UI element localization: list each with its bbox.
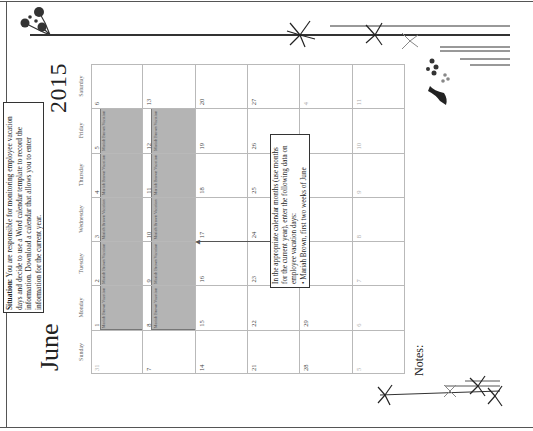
calendar-day-cell[interactable]: 9	[353, 153, 405, 197]
day-number: 5	[93, 146, 100, 149]
vacation-entry: Mariah Brown Vacation	[153, 154, 158, 197]
calendar-day-cell[interactable]: 29	[300, 285, 352, 329]
vacation-entry: Mariah Brown Vacation	[101, 154, 106, 197]
grass-decoration-icon	[350, 371, 533, 431]
day-number: 14	[198, 365, 205, 372]
day-number: 12	[145, 143, 152, 150]
day-number: 25	[250, 187, 257, 194]
day-number: 10	[355, 143, 362, 150]
calendar-day-cell[interactable]: 18	[196, 153, 248, 197]
situation-box: Situation: You are responsible for monit…	[3, 102, 44, 313]
day-number: 4	[93, 191, 100, 194]
month-title: June	[35, 323, 65, 371]
day-number: 10	[145, 232, 152, 239]
day-number: 7	[355, 279, 362, 282]
day-number: 7	[145, 368, 152, 371]
instruction-callout: In the appropriate calendar months (use …	[270, 134, 310, 288]
day-number: 19	[198, 143, 205, 150]
day-number: 15	[198, 320, 205, 327]
calendar-day-cell[interactable]: 7	[143, 330, 195, 374]
calendar-day-cell[interactable]: 16	[196, 241, 248, 285]
day-number: 8	[145, 323, 152, 326]
calendar-day-cell[interactable]: 22	[248, 285, 300, 329]
callout-intro: In the appropriate calendar months (use …	[272, 138, 300, 284]
day-number: 2	[93, 279, 100, 282]
calendar-day-cell[interactable]: 31	[91, 330, 143, 374]
day-number: 21	[250, 365, 257, 372]
weekday-header: Wednesday	[78, 197, 84, 241]
vacation-entry: Mariah Brown Vacation	[153, 286, 158, 329]
calendar-day-cell[interactable]: 4Mariah Brown Vacation	[91, 153, 143, 197]
day-number: 23	[250, 276, 257, 283]
weekday-header: Monday	[78, 285, 84, 329]
calendar-day-cell[interactable]: 15	[196, 285, 248, 329]
day-number: 18	[198, 187, 205, 194]
calendar-day-cell[interactable]: 8	[353, 197, 405, 241]
calendar-day-cell[interactable]: 6	[353, 285, 405, 329]
vacation-entry: Mariah Brown Vacation	[101, 198, 106, 241]
weekday-header: Thursday	[78, 153, 84, 197]
calendar-day-cell[interactable]: 5	[353, 330, 405, 374]
calendar-day-cell[interactable]: 14	[196, 330, 248, 374]
weekday-header: Tuesday	[78, 241, 84, 285]
callout-arrow-line	[197, 241, 270, 242]
calendar-day-cell[interactable]: 21	[248, 330, 300, 374]
day-number: 16	[198, 276, 205, 283]
calendar-day-cell[interactable]: 17	[196, 197, 248, 241]
day-number: 6	[355, 323, 362, 326]
day-number: 28	[302, 365, 309, 372]
calendar-day-cell[interactable]: 28	[300, 330, 352, 374]
day-number: 24	[250, 232, 257, 239]
day-number: 3	[93, 235, 100, 238]
day-number: 8	[355, 235, 362, 238]
calendar-page: Situation: You are responsible for monit…	[0, 0, 533, 431]
calendar-day-cell[interactable]: 3Mariah Brown Vacation	[91, 197, 143, 241]
vacation-entry: Mariah Brown Vacation	[153, 242, 158, 285]
vacation-entry: Mariah Brown Vacation	[101, 286, 106, 329]
day-number: 31	[93, 365, 100, 372]
day-number: 26	[250, 143, 257, 150]
calendar-day-cell[interactable]: 10Mariah Brown Vacation	[143, 197, 195, 241]
day-number: 1	[93, 323, 100, 326]
calendar-day-cell[interactable]: 11Mariah Brown Vacation	[143, 153, 195, 197]
day-number: 22	[250, 320, 257, 327]
tree-branch-decoration-icon	[0, 0, 533, 131]
situation-label: Situation:	[5, 279, 14, 310]
calendar-day-cell[interactable]: 8Mariah Brown Vacation	[143, 285, 195, 329]
day-number: 29	[302, 320, 309, 327]
calendar-day-cell[interactable]: 9Mariah Brown Vacation	[143, 241, 195, 285]
calendar-day-cell[interactable]: 7	[353, 241, 405, 285]
vacation-entry: Mariah Brown Vacation	[101, 242, 106, 285]
day-number: 9	[145, 279, 152, 282]
vacation-entry: Mariah Brown Vacation	[153, 198, 158, 241]
callout-bullet: • Mariah Brown, first two weeks of June	[300, 138, 309, 284]
day-number: 11	[145, 188, 152, 194]
calendar-day-cell[interactable]: 1Mariah Brown Vacation	[91, 285, 143, 329]
day-number: 9	[355, 191, 362, 194]
calendar-day-cell[interactable]: 2Mariah Brown Vacation	[91, 241, 143, 285]
arrow-up-icon: ▲	[194, 238, 202, 246]
weekday-header: Sunday	[78, 330, 84, 374]
